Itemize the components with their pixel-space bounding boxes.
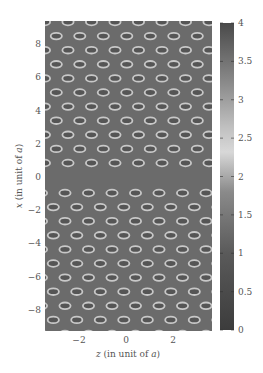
ellipse-feature bbox=[118, 204, 129, 211]
ellipse-feature bbox=[95, 317, 106, 324]
ellipse-feature bbox=[133, 19, 144, 26]
ellipse-feature bbox=[145, 61, 156, 68]
ellipse-feature bbox=[48, 204, 59, 211]
ellipse-feature bbox=[177, 246, 188, 253]
colorbar-tick-label: 3.5 bbox=[238, 56, 253, 66]
ellipse-feature bbox=[59, 190, 70, 197]
ellipse-feature bbox=[24, 260, 35, 267]
ellipse-feature bbox=[156, 19, 167, 26]
ellipse-feature bbox=[36, 218, 47, 225]
ellipse-feature bbox=[95, 232, 106, 239]
ellipse-feature bbox=[95, 260, 106, 267]
ellipse-feature bbox=[24, 317, 35, 324]
y-tick-label: 6 bbox=[35, 72, 41, 82]
ellipse-feature bbox=[177, 218, 188, 225]
ellipse-feature bbox=[48, 317, 59, 324]
ellipse-feature bbox=[106, 303, 117, 310]
ellipse-feature bbox=[59, 331, 70, 338]
colorbar-tick-label: 2.5 bbox=[238, 133, 253, 143]
ellipse-feature bbox=[98, 61, 109, 68]
ellipse-feature bbox=[133, 47, 144, 54]
ellipse-feature bbox=[142, 317, 153, 324]
ellipse-feature bbox=[153, 190, 164, 197]
ellipse-feature bbox=[71, 260, 82, 267]
ellipse-feature bbox=[27, 61, 38, 68]
heatmap-plot bbox=[24, 19, 226, 338]
ellipse-feature bbox=[86, 132, 97, 139]
ellipse-feature bbox=[74, 146, 85, 153]
ellipse-feature bbox=[71, 317, 82, 324]
ellipse-feature bbox=[118, 232, 129, 239]
ellipse-feature bbox=[189, 232, 200, 239]
ellipse-feature bbox=[180, 75, 191, 82]
ellipse-feature bbox=[180, 103, 191, 110]
y-axis-ticks: 86420−2−4−6−8 bbox=[28, 39, 42, 315]
ellipse-feature bbox=[27, 89, 38, 96]
ellipse-feature bbox=[48, 260, 59, 267]
ellipse-feature bbox=[71, 288, 82, 295]
ellipse-feature bbox=[180, 47, 191, 54]
y-tick-label: −6 bbox=[28, 272, 42, 282]
ellipse-feature bbox=[83, 218, 94, 225]
ellipse-feature bbox=[180, 19, 191, 26]
ellipse-feature bbox=[98, 117, 109, 124]
ellipse-feature bbox=[51, 89, 62, 96]
ellipse-feature bbox=[145, 89, 156, 96]
ellipse-feature bbox=[200, 190, 211, 197]
ellipse-feature bbox=[51, 146, 62, 153]
ellipse-feature bbox=[165, 317, 176, 324]
ellipse-feature bbox=[109, 160, 120, 167]
ellipse-feature bbox=[130, 331, 141, 338]
ellipse-feature bbox=[153, 303, 164, 310]
ellipse-feature bbox=[133, 132, 144, 139]
ellipse-feature bbox=[192, 146, 203, 153]
ellipse-feature bbox=[121, 117, 132, 124]
ellipse-feature bbox=[142, 260, 153, 267]
ellipse-feature bbox=[165, 232, 176, 239]
ellipse-feature bbox=[177, 190, 188, 197]
ellipse-feature bbox=[106, 274, 117, 281]
y-tick-label: −2 bbox=[28, 205, 41, 215]
ellipse-feature bbox=[192, 33, 203, 40]
ellipse-feature bbox=[98, 89, 109, 96]
ellipse-feature bbox=[145, 33, 156, 40]
ellipse-feature bbox=[189, 260, 200, 267]
ellipse-feature bbox=[177, 274, 188, 281]
ellipse-feature bbox=[156, 132, 167, 139]
ellipse-feature bbox=[71, 232, 82, 239]
ellipse-feature bbox=[86, 19, 97, 26]
ellipse-feature bbox=[200, 303, 211, 310]
ellipse-feature bbox=[153, 331, 164, 338]
colorbar-tick-label: 0 bbox=[238, 325, 244, 335]
colorbar-tick-label: 2 bbox=[238, 172, 244, 182]
ellipse-feature bbox=[192, 117, 203, 124]
ellipse-feature bbox=[153, 218, 164, 225]
y-tick-label: −4 bbox=[28, 238, 42, 248]
ellipse-feature bbox=[83, 246, 94, 253]
ellipse-feature bbox=[51, 61, 62, 68]
colorbar: 43.532.521.510.50 bbox=[220, 18, 253, 335]
ellipse-feature bbox=[109, 19, 120, 26]
ellipse-feature bbox=[74, 61, 85, 68]
ellipse-feature bbox=[62, 19, 73, 26]
ellipse-feature bbox=[192, 89, 203, 96]
ellipse-feature bbox=[168, 146, 179, 153]
ellipse-feature bbox=[203, 160, 214, 167]
y-axis-label: x (in unit of a) bbox=[14, 144, 24, 208]
ellipse-feature bbox=[165, 260, 176, 267]
ellipse-feature bbox=[109, 75, 120, 82]
ellipse-feature bbox=[62, 103, 73, 110]
ellipse-feature bbox=[130, 190, 141, 197]
ellipse-feature bbox=[74, 33, 85, 40]
ellipse-feature bbox=[156, 160, 167, 167]
ellipse-feature bbox=[98, 146, 109, 153]
ellipse-feature bbox=[142, 288, 153, 295]
ellipse-feature bbox=[130, 218, 141, 225]
ellipse-feature bbox=[39, 160, 50, 167]
ellipse-feature bbox=[62, 75, 73, 82]
ellipse-feature bbox=[189, 317, 200, 324]
x-tick-label: 2 bbox=[170, 335, 176, 345]
ellipse-feature bbox=[189, 288, 200, 295]
ellipse-feature bbox=[59, 218, 70, 225]
ellipse-feature bbox=[109, 47, 120, 54]
